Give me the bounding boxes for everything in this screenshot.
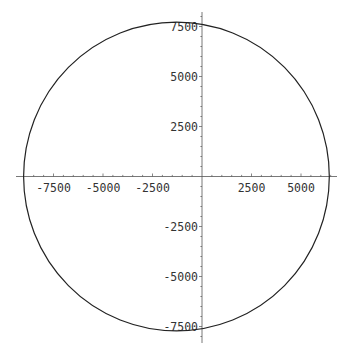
y-tick-label: 2500: [170, 120, 198, 134]
x-tick-labels: -7500-5000-250025005000: [36, 181, 315, 195]
x-tick-label: 5000: [287, 181, 315, 195]
parametric-circle-plot: -7500-5000-250025005000 750050002500-250…: [0, 0, 348, 352]
y-tick-label: 5000: [170, 70, 198, 84]
x-tick-label: -5000: [86, 181, 121, 195]
axes: [16, 12, 337, 343]
x-tick-label: 2500: [238, 181, 266, 195]
y-tick-label: -5000: [163, 270, 198, 284]
x-tick-label: -7500: [36, 181, 71, 195]
y-tick-label: -2500: [163, 220, 198, 234]
x-tick-label: -2500: [135, 181, 170, 195]
